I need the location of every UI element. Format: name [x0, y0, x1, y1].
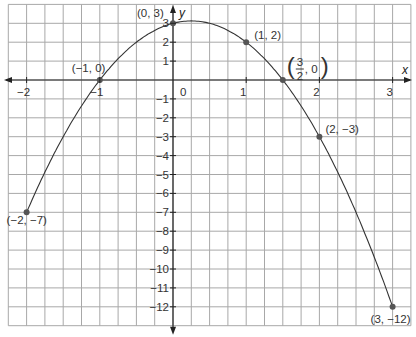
paren-left: ( [287, 52, 295, 79]
y-tick-label: −8 [156, 225, 169, 237]
y-tick-label: 1 [163, 55, 169, 67]
data-point [280, 77, 286, 83]
point-label: (−2, −7) [7, 214, 47, 226]
data-point [390, 304, 396, 310]
x-axis-label: x [401, 63, 409, 77]
point-label: (3, −12) [371, 313, 411, 325]
y-axis-label: y [178, 6, 186, 20]
origin-label: 0 [180, 86, 186, 98]
point-label: (0, 3) [137, 7, 164, 19]
x-tick-label: 1 [240, 86, 246, 98]
parabola-chart: xy (−2, −7)(−1, 0)(0, 3)(1, 2)(32, 0)(2,… [0, 0, 416, 337]
data-point [316, 134, 322, 140]
y-tick-label: −7 [156, 206, 169, 218]
y-tick-label: 2 [163, 36, 169, 48]
y-tick-label: −2 [156, 112, 169, 124]
data-points: (−2, −7)(−1, 0)(0, 3)(1, 2)(32, 0)(2, −3… [7, 7, 411, 325]
fraction-numerator: 3 [297, 56, 303, 68]
fraction-rest: , 0 [305, 63, 318, 75]
grid [8, 4, 411, 325]
y-tick-label: −9 [156, 244, 169, 256]
x-tick-label: −2 [17, 86, 30, 98]
x-tick-label: 3 [386, 86, 392, 98]
y-tick-label: −4 [156, 150, 170, 162]
y-axis-down-arrow-icon [170, 327, 176, 335]
point-label: (1, 2) [254, 29, 281, 41]
x-tick-label: 2 [313, 86, 319, 98]
y-axis-up-arrow-icon [170, 5, 176, 13]
y-tick-label: −11 [150, 282, 169, 294]
y-tick-label: −12 [149, 301, 169, 313]
fraction-denominator: 2 [297, 70, 303, 82]
y-tick-label: −6 [156, 187, 169, 199]
y-tick-label: −3 [156, 131, 169, 143]
x-tick-label: −1 [90, 86, 103, 98]
point-label-fraction: (32, 0) [287, 52, 329, 82]
y-tick-label: −5 [156, 169, 169, 181]
point-label: (2, −3) [325, 123, 359, 135]
y-tick-label: −10 [149, 263, 169, 275]
y-tick-label: −1 [156, 93, 169, 105]
data-point [243, 39, 249, 45]
y-tick-label: 3 [163, 17, 169, 29]
axes: xy [4, 5, 412, 335]
point-label: (−1, 0) [72, 62, 106, 74]
paren-right: ) [321, 52, 329, 79]
